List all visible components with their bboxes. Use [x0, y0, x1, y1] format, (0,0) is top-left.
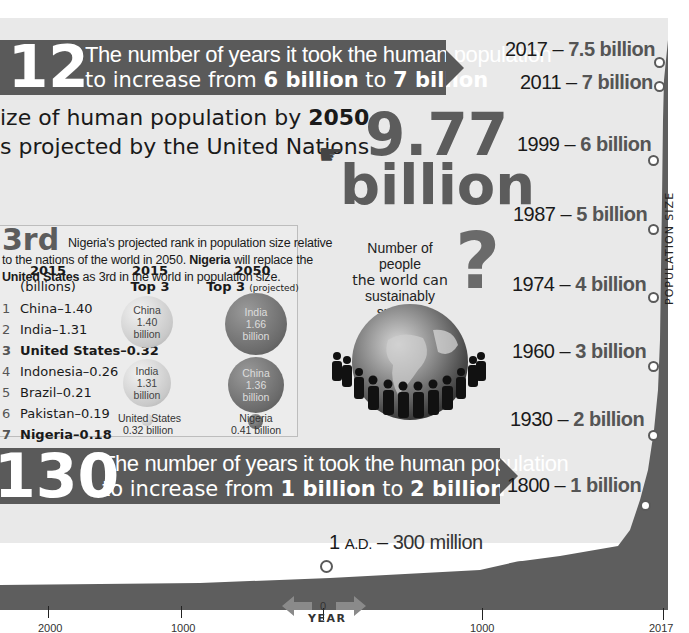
- bubble-value: 1.66: [243, 318, 270, 330]
- col3-header-title: Top 3: [206, 279, 245, 294]
- bubble-name: India: [134, 365, 161, 377]
- timeline-label-2017: 2017 – 7.5 billion: [505, 38, 655, 61]
- x-tick-label: 1000: [470, 622, 494, 633]
- tl-year: 2017: [505, 38, 548, 60]
- bubble-2050-china: China1.36billion: [228, 357, 284, 413]
- x-tick: [663, 608, 664, 620]
- banner-line2-bold2: 2 billion: [410, 477, 505, 501]
- tl-sep: –: [550, 474, 571, 496]
- bubble-2015-china: China1.40billion: [121, 296, 173, 348]
- timeline-label-1ad: 1 A.D. – 300 million: [329, 531, 483, 554]
- x-tick: [181, 606, 182, 618]
- bubble-unit: billion: [242, 391, 269, 403]
- tl-sep: –: [560, 133, 581, 155]
- banner-130-years: 130 The number of years it took the huma…: [0, 448, 500, 504]
- tl-sep: –: [555, 273, 576, 295]
- banner-line2: to increase from 1 billion to 2 billion: [102, 477, 505, 501]
- rank-label: Indonesia–0.26: [20, 364, 118, 379]
- tl-pop: 5 billion: [576, 203, 647, 225]
- bubble-value: 0.41 billion: [228, 424, 284, 436]
- col3-header: 2050 Top 3 (projected): [205, 263, 300, 296]
- rank-number: 2: [0, 319, 20, 340]
- col2-header: 2015 Top 3: [120, 263, 180, 295]
- col3-header-year: 2050: [234, 263, 270, 278]
- x-tick-label: 1000: [171, 622, 195, 633]
- rank-number: 1: [0, 298, 20, 319]
- banner-arrow-tip: [446, 50, 464, 86]
- rank-number: 6: [0, 403, 20, 424]
- rank-label: Pakistan–0.19: [20, 406, 110, 421]
- col3-header-note: (projected): [249, 283, 299, 293]
- tl-sep: –: [553, 408, 574, 430]
- tl-pop: 2 billion: [573, 408, 644, 430]
- timeline-label-1974: 1974 – 4 billion: [512, 273, 646, 296]
- rank-description: Nigeria's projected rank in population s…: [68, 236, 332, 250]
- tl-year: 1800: [507, 474, 550, 496]
- tl-year: 2011: [520, 71, 561, 93]
- banner-line2-mid: to: [359, 68, 393, 92]
- tl-pop: 7 billion: [582, 71, 653, 93]
- bubble-2015-india: India1.31billion: [123, 359, 171, 407]
- y-axis-label: POPULATION SIZE: [663, 192, 676, 305]
- bubble-value: 1.40: [133, 316, 160, 328]
- ad-sep: –: [372, 531, 393, 553]
- tl-pop: 1 billion: [570, 474, 641, 496]
- support-line1: Number of people: [345, 240, 455, 272]
- bubble-name: India: [243, 306, 270, 318]
- timeline-label-1930: 1930 – 2 billion: [510, 408, 644, 431]
- tl-sep: –: [561, 71, 582, 93]
- bubble-name: China: [242, 367, 269, 379]
- question-mark-icon: ?: [455, 222, 500, 300]
- x-tick-label: 2017: [649, 622, 673, 633]
- timeline-label-1999: 1999 – 6 billion: [517, 133, 651, 156]
- rank-label: China–1.40: [20, 301, 93, 316]
- timeline-label-2011: 2011 – 7 billion: [520, 71, 653, 94]
- tl-year: 1930: [510, 408, 553, 430]
- bubble-name: China: [133, 304, 160, 316]
- bubble-unit: billion: [134, 389, 161, 401]
- tl-sep: –: [548, 38, 569, 60]
- col1-header: 2015 (billions): [8, 263, 88, 295]
- banner-line2-mid: to: [376, 477, 410, 501]
- tl-pop: 4 billion: [575, 273, 646, 295]
- bubble-value: 1.31: [134, 377, 161, 389]
- timeline-label-1987: 1987 – 5 billion: [513, 203, 647, 226]
- globe-people-icon: [328, 300, 488, 425]
- tl-pop: 7.5 billion: [568, 38, 655, 60]
- bubble-unit: billion: [243, 330, 270, 342]
- tl-year: 1999: [517, 133, 560, 155]
- tl-year: 1974: [512, 273, 555, 295]
- x-tick: [48, 606, 49, 618]
- nigeria-rank-box: 3rd Nigeria's projected rank in populati…: [0, 225, 298, 437]
- data-point-1ad: [320, 560, 333, 573]
- data-point-1930: [648, 430, 659, 441]
- data-point-2011: [654, 81, 665, 92]
- banner-line2-prefix: to increase from: [102, 477, 281, 501]
- data-point-1999: [648, 155, 659, 166]
- tl-pop: 3 billion: [575, 340, 646, 362]
- tl-year: 1960: [512, 340, 555, 362]
- banner-number: 12: [8, 38, 89, 96]
- data-point-1974: [648, 292, 659, 303]
- rank-label: India–1.31: [20, 322, 87, 337]
- tl-pop: 6 billion: [580, 133, 651, 155]
- data-point-1960: [648, 361, 659, 372]
- bubble-name: United States: [118, 412, 178, 424]
- col2-header-title: Top 3: [131, 279, 170, 294]
- projected-unit: billion: [340, 157, 535, 213]
- data-point-1800: [640, 500, 651, 511]
- ad-year: 1: [329, 531, 340, 553]
- us-2015-label: United States 0.32 billion: [118, 412, 178, 436]
- x-tick-label: 2000: [38, 622, 62, 633]
- banner-line2-bold1: 1 billion: [281, 477, 376, 501]
- bubble-name: Nigeria: [228, 412, 284, 424]
- rank-number: 4: [0, 361, 20, 382]
- rank-number: 3: [0, 340, 20, 361]
- x-tick: [482, 608, 483, 620]
- col1-header-year: 2015: [30, 263, 66, 278]
- bubble-2050-india: India1.66billion: [225, 293, 287, 355]
- data-point-2017: [654, 57, 665, 68]
- banner-line1: The number of years it took the human po…: [102, 451, 568, 477]
- bubble-value: 1.36: [242, 379, 269, 391]
- banner-line2-prefix: to increase from: [85, 68, 264, 92]
